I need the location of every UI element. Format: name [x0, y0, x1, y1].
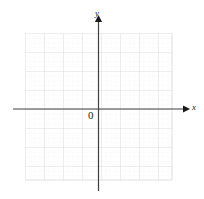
- x-axis-arrow-icon: [183, 105, 190, 112]
- y-axis-label: y: [95, 9, 99, 18]
- origin-label: 0: [88, 110, 94, 121]
- coordinate-plane-svg: [0, 0, 204, 199]
- coordinate-plane-figure: y x 0: [0, 0, 204, 199]
- x-axis-label: x: [192, 103, 196, 112]
